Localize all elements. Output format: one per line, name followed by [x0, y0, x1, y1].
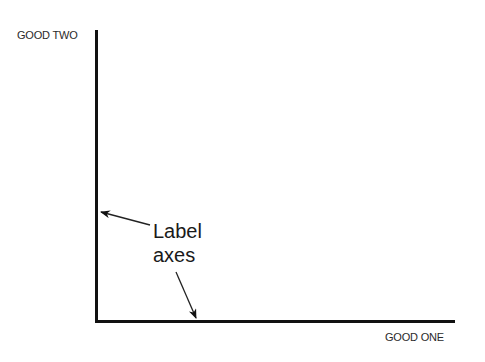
- arrow-to-y-axis-icon: [101, 212, 150, 225]
- arrow-to-x-axis-icon: [176, 272, 196, 318]
- axes-diagram: [0, 0, 485, 362]
- annotation-label-line1: Label: [153, 219, 202, 243]
- annotation-label-line2: axes: [153, 243, 195, 267]
